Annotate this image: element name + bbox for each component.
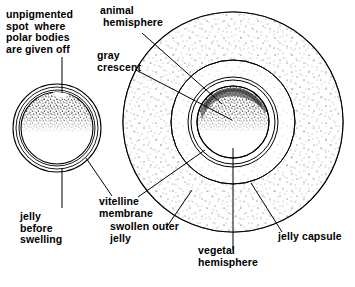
small-egg-group <box>13 84 101 172</box>
large-egg-group <box>120 9 350 237</box>
label-gray-crescent: gray crescent <box>97 50 141 73</box>
label-unpigmented-spot: unpigmented spot where polar bodies are … <box>6 9 73 55</box>
label-animal-hemisphere: animal hemisphere <box>100 5 163 28</box>
egg-structure-figure: unpigmented spot where polar bodies are … <box>0 0 355 287</box>
label-jelly-before-swelling: jelly before swelling <box>20 211 62 246</box>
label-swollen-outer-jelly: swollen outer jelly <box>110 221 179 244</box>
label-vitelline-membrane: vitelline membrane <box>99 196 153 219</box>
label-vegetal-hemisphere: vegetal hemisphere <box>198 245 258 268</box>
leader-vitelline-small <box>86 158 112 196</box>
label-jelly-capsule: jelly capsule <box>278 231 342 243</box>
